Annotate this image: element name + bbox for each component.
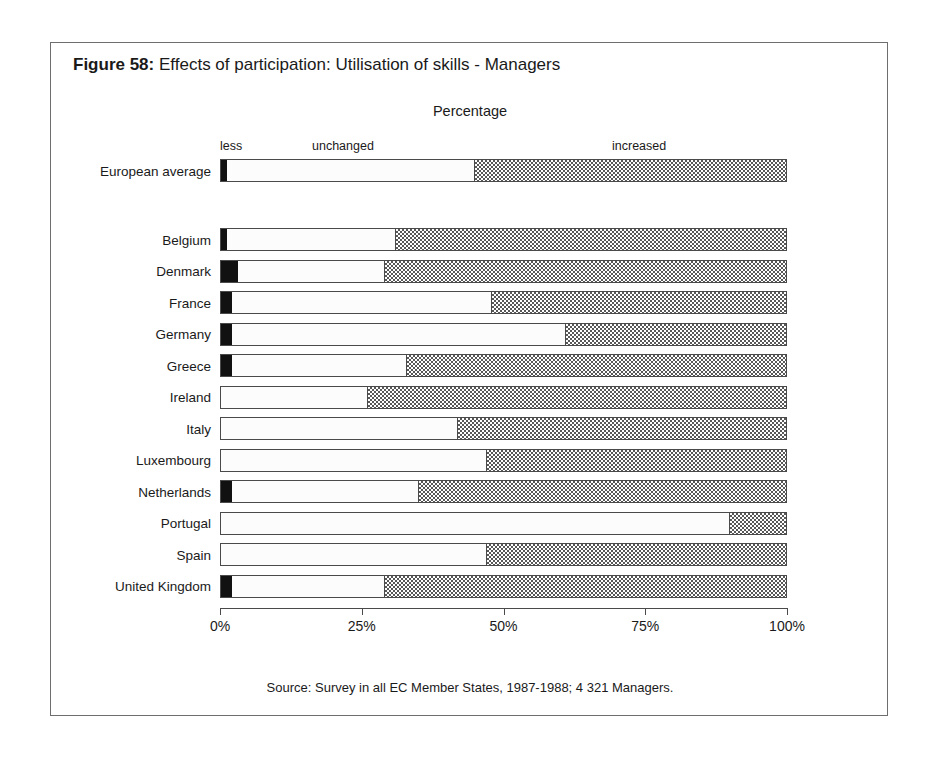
bar-segment-less bbox=[221, 324, 232, 345]
bar-row-label: Luxembourg bbox=[136, 453, 211, 468]
bar-track bbox=[220, 575, 787, 598]
bar-track bbox=[220, 449, 787, 472]
x-axis-tick bbox=[787, 608, 788, 615]
bar-track bbox=[220, 543, 787, 566]
bar-segment-unchanged bbox=[221, 544, 487, 565]
bar-segment-increased bbox=[566, 324, 786, 345]
bar-track bbox=[220, 512, 787, 535]
bar-segment-increased bbox=[458, 418, 786, 439]
bar-segment-increased bbox=[492, 292, 786, 313]
legend-label-increased: increased bbox=[612, 139, 666, 153]
bar-segment-unchanged bbox=[221, 513, 730, 534]
bar-segment-less bbox=[221, 355, 232, 376]
bar-segment-unchanged bbox=[221, 418, 458, 439]
bar-track bbox=[220, 159, 787, 182]
bar-track bbox=[220, 386, 787, 409]
x-axis-tick bbox=[645, 608, 646, 615]
bar-track bbox=[220, 291, 787, 314]
bar-segment-unchanged bbox=[238, 261, 385, 282]
bar-segment-unchanged bbox=[227, 229, 397, 250]
bar-segment-increased bbox=[396, 229, 786, 250]
bar-row-label: United Kingdom bbox=[115, 579, 211, 594]
bar-segment-increased bbox=[419, 481, 786, 502]
bar-segment-increased bbox=[730, 513, 786, 534]
bar-segment-increased bbox=[475, 160, 786, 181]
bar-row-label: Spain bbox=[176, 547, 211, 562]
bar-segment-less bbox=[221, 292, 232, 313]
source-note: Source: Survey in all EC Member States, … bbox=[51, 680, 889, 695]
bar-row-label: Greece bbox=[167, 358, 211, 373]
bar-segment-unchanged bbox=[232, 481, 418, 502]
figure-frame: Figure 58: Effects of participation: Uti… bbox=[50, 42, 888, 716]
bar-segment-increased bbox=[385, 261, 786, 282]
bar-segment-unchanged bbox=[232, 292, 492, 313]
bar-track bbox=[220, 354, 787, 377]
bar-segment-unchanged bbox=[227, 160, 476, 181]
bar-row-label: Italy bbox=[186, 421, 211, 436]
bar-track bbox=[220, 228, 787, 251]
x-axis-tick-label: 25% bbox=[348, 618, 376, 634]
bar-segment-less bbox=[221, 576, 232, 597]
x-axis-tick bbox=[504, 608, 505, 615]
bar-row-label: Ireland bbox=[170, 390, 211, 405]
x-axis-tick bbox=[362, 608, 363, 615]
bar-track bbox=[220, 323, 787, 346]
bar-row-label: European average bbox=[100, 163, 211, 178]
bar-row-label: Portugal bbox=[161, 516, 211, 531]
bar-row-label: Denmark bbox=[156, 264, 211, 279]
bar-track bbox=[220, 417, 787, 440]
bar-segment-unchanged bbox=[232, 576, 385, 597]
bar-segment-less bbox=[221, 261, 238, 282]
bar-segment-increased bbox=[407, 355, 786, 376]
bar-row-label: France bbox=[169, 295, 211, 310]
x-axis-tick-label: 75% bbox=[631, 618, 659, 634]
x-axis-tick-label: 50% bbox=[489, 618, 517, 634]
bar-segment-unchanged bbox=[221, 387, 368, 408]
x-axis-tick-label: 100% bbox=[769, 618, 805, 634]
figure-number: Figure 58: bbox=[73, 55, 154, 74]
bar-segment-unchanged bbox=[232, 355, 407, 376]
bar-segment-less bbox=[221, 481, 232, 502]
bar-row-label: Belgium bbox=[162, 232, 211, 247]
bar-segment-unchanged bbox=[232, 324, 565, 345]
legend-label-unchanged: unchanged bbox=[312, 139, 374, 153]
bar-segment-increased bbox=[385, 576, 786, 597]
x-axis-tick bbox=[220, 608, 221, 615]
bar-track bbox=[220, 260, 787, 283]
x-axis-tick-label: 0% bbox=[210, 618, 230, 634]
bar-segment-increased bbox=[487, 544, 786, 565]
legend-label-less: less bbox=[220, 139, 242, 153]
chart-plot-area: lessunchangedincreasedEuropean averageBe… bbox=[220, 43, 787, 717]
bar-track bbox=[220, 480, 787, 503]
bar-row-label: Germany bbox=[155, 327, 211, 342]
bar-segment-unchanged bbox=[221, 450, 487, 471]
bar-segment-increased bbox=[487, 450, 786, 471]
bar-segment-increased bbox=[368, 387, 786, 408]
bar-row-label: Netherlands bbox=[138, 484, 211, 499]
